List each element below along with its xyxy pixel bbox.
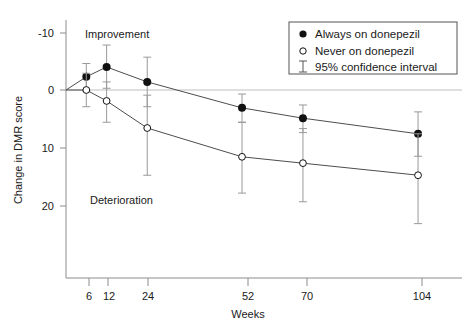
y-tick-label-10: 10	[42, 142, 54, 154]
deterioration-annotation: Deterioration	[90, 194, 153, 206]
data-point-marker	[83, 87, 90, 94]
x-axis-title: Weeks	[231, 308, 265, 320]
data-point-marker	[300, 160, 307, 167]
legend-marker-filled-circle	[299, 30, 306, 37]
data-point-marker	[238, 104, 246, 112]
legend-label-ci: 95% confidence interval	[315, 61, 437, 73]
x-axis-ticks: 6 12 24 52 70 104	[86, 278, 431, 302]
x-tick-label-12: 12	[103, 290, 115, 302]
chart-container: -10 0 10 20 6 12 24 52 70 104 Change in …	[0, 0, 467, 330]
improvement-annotation: Improvement	[85, 28, 149, 40]
data-point-marker	[143, 78, 151, 86]
y-axis-title: Change in DMR score	[12, 96, 24, 204]
data-point-marker	[239, 153, 246, 160]
x-tick-label-6: 6	[86, 290, 92, 302]
data-point-marker	[299, 114, 307, 122]
data-point-marker	[103, 63, 111, 71]
x-tick-label-52: 52	[242, 290, 254, 302]
x-tick-label-104: 104	[413, 290, 431, 302]
y-axis-ticks: -10 0 10 20	[38, 27, 66, 212]
data-point-marker	[144, 125, 151, 132]
x-tick-label-24: 24	[142, 290, 154, 302]
y-tick-label-0: 0	[48, 84, 54, 96]
chart-legend: Always on donepezil Never on donepezil 9…	[289, 22, 457, 74]
data-point-marker	[415, 172, 422, 179]
legend-label-always: Always on donepezil	[315, 28, 420, 40]
legend-marker-open-circle	[300, 48, 306, 54]
y-tick-label-minus10: -10	[38, 27, 54, 39]
legend-label-never: Never on donepezil	[315, 45, 414, 57]
x-tick-label-70: 70	[301, 290, 313, 302]
y-tick-label-20: 20	[42, 200, 54, 212]
data-point-marker	[103, 98, 110, 105]
dmr-score-line-chart: -10 0 10 20 6 12 24 52 70 104 Change in …	[0, 0, 467, 330]
